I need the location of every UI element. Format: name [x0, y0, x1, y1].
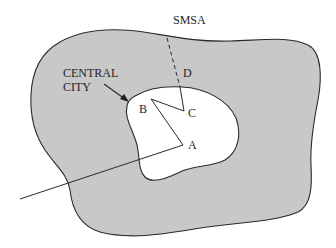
label-c: C	[188, 106, 196, 120]
label-d: D	[183, 66, 192, 80]
smsa-diagram: SMSA D CENTRAL CITY B C A	[0, 0, 336, 248]
label-central: CENTRAL	[63, 66, 118, 80]
label-city: CITY	[63, 80, 91, 94]
label-a: A	[188, 138, 197, 152]
label-b: B	[139, 102, 147, 116]
label-smsa: SMSA	[173, 13, 206, 27]
